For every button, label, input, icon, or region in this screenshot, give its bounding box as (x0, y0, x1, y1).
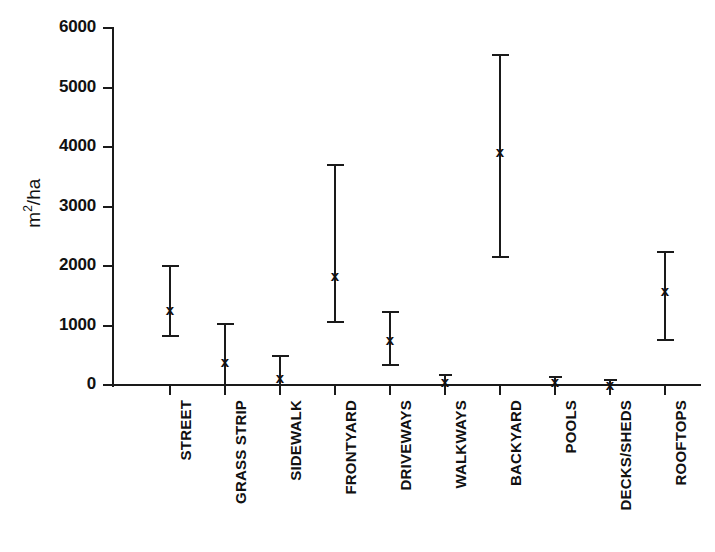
x-axis-tick (389, 386, 391, 395)
y-axis-title: m2/ha (21, 188, 44, 228)
data-point-marker: x (551, 374, 559, 389)
data-point-marker: x (661, 283, 669, 298)
error-bar-cap-lower (217, 384, 234, 386)
x-axis-tick-label: POOLS (562, 400, 579, 454)
y-axis-tick-label: 6000 (59, 17, 96, 37)
y-axis-tick (103, 325, 112, 327)
error-bar-cap-upper (657, 251, 674, 253)
error-bar-line (334, 165, 336, 322)
error-bar-cap-upper (162, 265, 179, 267)
y-axis-tick (103, 87, 112, 89)
data-point-marker: x (276, 369, 284, 384)
y-axis-tick-label: 2000 (59, 255, 96, 275)
y-axis-tick (103, 146, 112, 148)
error-bar-cap-lower (492, 256, 509, 258)
chart-figure: m2/ha 0100020003000400050006000 STREETGR… (0, 0, 715, 552)
error-bar-cap-lower (162, 335, 179, 337)
x-axis-tick-label: FRONTYARD (342, 400, 359, 495)
error-bar-cap-upper (327, 164, 344, 166)
data-point-marker: x (386, 331, 394, 346)
x-axis-tick-label: DECKS/SHEDS (617, 400, 634, 511)
y-axis-tick-label: 1000 (59, 315, 96, 335)
y-axis-tick-label: 3000 (59, 196, 96, 216)
x-axis-tick (224, 386, 226, 395)
y-axis-tick-label: 4000 (59, 136, 96, 156)
x-axis-tick-label: SIDEWALK (287, 400, 304, 481)
error-bar-cap-lower (327, 321, 344, 323)
error-bar-cap-upper (272, 355, 289, 357)
error-bar-cap-lower (382, 364, 399, 366)
data-point-marker: x (441, 373, 449, 388)
x-axis-tick (499, 386, 501, 395)
x-axis-tick (664, 386, 666, 395)
y-axis-tick (103, 206, 112, 208)
data-point-marker: x (606, 376, 614, 391)
x-axis-tick-label: BACKYARD (507, 400, 524, 486)
y-axis-tick (103, 265, 112, 267)
error-bar-cap-upper (217, 323, 234, 325)
x-axis-tick-label: WALKWAYS (452, 400, 469, 489)
x-axis-tick-label: GRASS STRIP (232, 400, 249, 504)
error-bar-cap-upper (492, 54, 509, 56)
x-axis-tick (334, 386, 336, 395)
y-axis-tick-label: 0 (87, 374, 96, 394)
x-axis-tick-label: DRIVEWAYS (397, 400, 414, 490)
data-point-marker: x (496, 144, 504, 159)
x-axis-tick (279, 386, 281, 395)
data-point-marker: x (221, 353, 229, 368)
error-bar-cap-lower (657, 339, 674, 341)
error-bar-cap-upper (382, 311, 399, 313)
x-axis-tick-label: STREET (177, 400, 194, 460)
data-point-marker: x (166, 301, 174, 316)
y-axis-line (112, 27, 114, 387)
y-axis-tick-label: 5000 (59, 77, 96, 97)
x-axis-tick (169, 386, 171, 395)
x-axis-tick-label: ROOFTOPS (672, 400, 689, 486)
y-axis-tick (103, 27, 112, 29)
data-point-marker: x (331, 267, 339, 282)
y-axis-tick (103, 384, 112, 386)
